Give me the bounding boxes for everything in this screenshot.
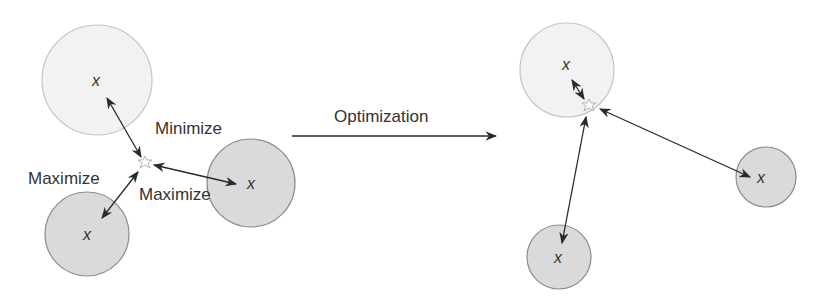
label-optimization: Optimization	[334, 107, 428, 126]
center-marker-x: x	[246, 175, 256, 192]
label-maximize-right: Maximize	[139, 185, 211, 204]
center-marker-x: x	[756, 169, 766, 186]
label-maximize-left: Maximize	[28, 169, 100, 188]
arrow-to-right	[600, 109, 750, 177]
dark-circle-right	[736, 147, 796, 207]
center-marker-x: x	[553, 249, 563, 266]
arrow-to-bottom	[562, 117, 586, 243]
center-marker-x: x	[561, 56, 571, 73]
after-panel: x x x	[520, 23, 796, 289]
star-icon	[138, 156, 152, 168]
center-marker-x: x	[82, 226, 92, 243]
label-minimize: Minimize	[155, 119, 222, 138]
optimization-diagram: x x x Minimize Maximize Maximize Optimiz…	[0, 0, 826, 303]
center-marker-x: x	[91, 72, 101, 89]
optimization-transition: Optimization	[292, 107, 496, 136]
before-panel: x x x Minimize Maximize Maximize	[28, 25, 295, 276]
